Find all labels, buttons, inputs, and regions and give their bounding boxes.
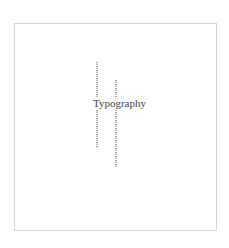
typography-title: Typography [93,97,146,110]
right-vertical-text-column [115,80,117,167]
